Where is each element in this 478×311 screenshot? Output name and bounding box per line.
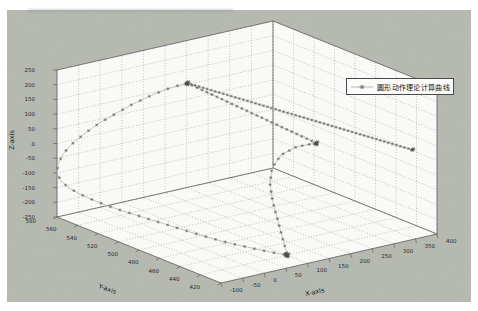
plot-canvas: -100-50050100150200250300350400580560540… <box>0 0 478 311</box>
legend: 圆形动作理论计算曲线 <box>346 78 454 95</box>
scan-noise <box>7 10 471 302</box>
legend-marker-sample <box>350 82 374 92</box>
z-axis-label: Z-axis <box>8 130 16 150</box>
legend-label: 圆形动作理论计算曲线 <box>377 82 450 92</box>
